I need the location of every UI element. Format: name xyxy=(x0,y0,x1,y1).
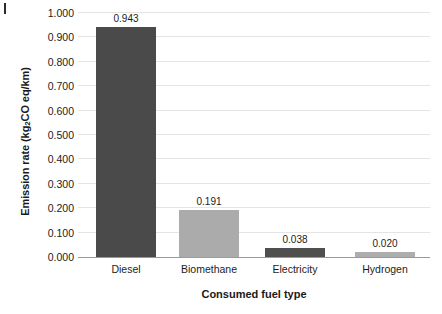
y-tick-label: 0.000 xyxy=(30,251,74,263)
scan-artifact-mark xyxy=(4,3,6,14)
y-tick-label: 0.600 xyxy=(30,105,74,117)
x-tick-label-hydrogen: Hydrogen xyxy=(362,263,408,275)
y-tick-label: 0.500 xyxy=(30,129,74,141)
y-tick-label: 1.000 xyxy=(30,7,74,19)
x-axis-title: Consumed fuel type xyxy=(78,288,430,300)
x-tick-label-biomethane: Biomethane xyxy=(181,263,237,275)
x-tick-label-diesel: Diesel xyxy=(111,263,140,275)
y-tick-label: 0.200 xyxy=(30,202,74,214)
x-tick-label-electricity: Electricity xyxy=(273,263,318,275)
plot-area: 0.9430.1910.0380.020 xyxy=(78,13,430,258)
bar-value-label: 0.020 xyxy=(372,238,397,249)
x-axis-line xyxy=(78,257,430,258)
y-tick-label: 0.900 xyxy=(30,31,74,43)
bar-hydrogen: 0.020 xyxy=(355,252,415,257)
bar-value-label: 0.191 xyxy=(196,196,221,207)
bar-electricity: 0.038 xyxy=(265,248,325,257)
bar-biomethane: 0.191 xyxy=(179,210,239,257)
bar-diesel: 0.943 xyxy=(96,27,156,257)
y-axis-tick-labels: 0.0000.1000.2000.3000.4000.5000.6000.700… xyxy=(30,10,74,258)
bar-value-label: 0.943 xyxy=(113,13,138,24)
emission-rate-bar-chart: Emission rate (kg2CO eq/km) 0.0000.1000.… xyxy=(0,0,442,314)
y-tick-label: 0.800 xyxy=(30,56,74,68)
y-tick-label: 0.300 xyxy=(30,178,74,190)
y-tick-label: 0.700 xyxy=(30,80,74,92)
y-tick-label: 0.400 xyxy=(30,153,74,165)
y-tick-label: 0.100 xyxy=(30,227,74,239)
bar-value-label: 0.038 xyxy=(282,234,307,245)
x-axis-tick-labels: DieselBiomethaneElectricityHydrogen xyxy=(78,263,430,281)
